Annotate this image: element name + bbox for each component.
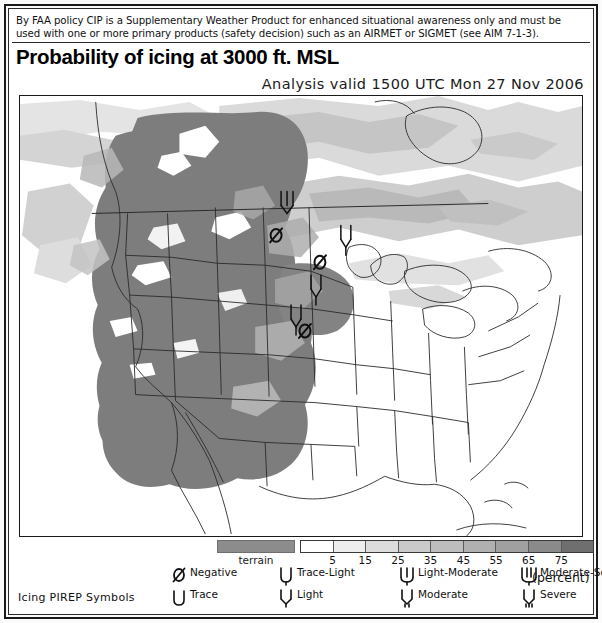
colorbar-swatch-3 bbox=[399, 541, 432, 552]
colorbar-tick-75: 75 bbox=[555, 554, 568, 566]
analysis-valid-time: Analysis valid 1500 UTC Mon 27 Nov 2006 bbox=[262, 76, 584, 92]
pirep-label: Negative bbox=[190, 566, 237, 578]
pirep-legend-moderate-severe: Moderate-Severe bbox=[520, 566, 602, 586]
pirep-label: Moderate-Severe bbox=[540, 566, 602, 578]
light-moderate-icon bbox=[398, 566, 416, 586]
negative-icon bbox=[170, 566, 188, 586]
pirep-legend-negative: Negative bbox=[170, 566, 237, 586]
pirep-legend-light: Light bbox=[277, 588, 323, 608]
colorbar-swatch-1 bbox=[334, 541, 367, 552]
map-legend: terrain 515253545556575 (percent) Icing … bbox=[12, 538, 590, 611]
icing-probability-map bbox=[19, 95, 583, 537]
pirep-label: Moderate bbox=[418, 588, 468, 600]
pirep-label: Light bbox=[297, 588, 323, 600]
terrain-swatch bbox=[217, 540, 295, 553]
colorbar-tick-55: 55 bbox=[489, 554, 502, 566]
faa-disclaimer: By FAA policy CIP is a Supplementary Wea… bbox=[12, 12, 590, 43]
colorbar-tick-65: 65 bbox=[522, 554, 535, 566]
page-title: Probability of icing at 3000 ft. MSL bbox=[16, 45, 339, 69]
weather-product-page: By FAA policy CIP is a Supplementary Wea… bbox=[0, 0, 602, 623]
map-canvas bbox=[20, 96, 582, 536]
disclaimer-line-1: By FAA policy CIP is a Supplementary Wea… bbox=[16, 15, 586, 28]
colorbar-swatch-4 bbox=[431, 541, 464, 552]
moderate-severe-icon bbox=[520, 566, 538, 586]
colorbar-tick-15: 15 bbox=[359, 554, 372, 566]
pirep-legend-trace-light: Trace-Light bbox=[277, 566, 355, 586]
pirep-label: Trace-Light bbox=[297, 566, 355, 578]
probability-colorbar: 515253545556575 (percent) bbox=[300, 540, 594, 568]
colorbar-swatch-2 bbox=[366, 541, 399, 552]
terrain-label: terrain bbox=[217, 554, 295, 566]
terrain-legend: terrain bbox=[217, 540, 295, 566]
pirep-legend-trace: Trace bbox=[170, 588, 218, 608]
colorbar-tick-35: 35 bbox=[424, 554, 437, 566]
colorbar-swatch-5 bbox=[464, 541, 497, 552]
colorbar-swatch-0 bbox=[301, 541, 334, 552]
colorbar-swatches bbox=[300, 540, 594, 553]
pirep-legend-title: Icing PIREP Symbols bbox=[18, 591, 135, 604]
colorbar-swatch-7 bbox=[529, 541, 562, 552]
pirep-legend-light-moderate: Light-Moderate bbox=[398, 566, 498, 586]
pirep-label: Severe bbox=[540, 588, 576, 600]
disclaimer-line-2: used with one or more primary products (… bbox=[16, 28, 586, 41]
colorbar-tick-45: 45 bbox=[457, 554, 470, 566]
colorbar-tick-25: 25 bbox=[391, 554, 404, 566]
pirep-label: Trace bbox=[190, 588, 218, 600]
pirep-legend-severe: Severe bbox=[520, 588, 576, 608]
trace-light-icon bbox=[277, 566, 295, 586]
light-icon bbox=[277, 588, 295, 608]
pirep-label: Light-Moderate bbox=[418, 566, 498, 578]
pirep-legend-moderate: Moderate bbox=[398, 588, 468, 608]
trace-icon bbox=[170, 588, 188, 608]
colorbar-tick-5: 5 bbox=[329, 554, 336, 566]
colorbar-swatch-6 bbox=[496, 541, 529, 552]
moderate-icon bbox=[398, 588, 416, 608]
colorbar-swatch-8 bbox=[562, 541, 594, 552]
severe-icon bbox=[520, 588, 538, 608]
